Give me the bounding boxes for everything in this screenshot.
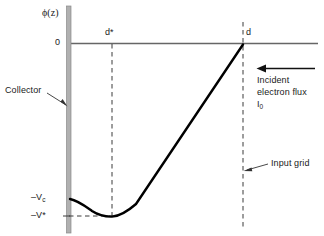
incident-flux-line-2: electron flux — [257, 86, 307, 98]
minus-vc-label: –Vc — [31, 192, 46, 205]
incident-flux-line-3: I0 — [257, 98, 307, 113]
d-star-label: d* — [105, 27, 114, 38]
diagram-canvas — [0, 0, 324, 236]
input-grid-label: Input grid — [271, 158, 310, 169]
d-label: d — [246, 27, 251, 38]
potential-profile-figure: ϕ(z) 0 d* d –Vc –V* Collector Input grid… — [0, 0, 324, 236]
collector-label: Collector — [5, 85, 41, 96]
incident-flux-current-sub: 0 — [260, 103, 264, 110]
incident-flux-arrowhead — [257, 65, 267, 73]
input-grid-leader-arrowhead — [244, 167, 253, 171]
origin-label: 0 — [55, 37, 60, 48]
minus-vc-label-sub: c — [42, 196, 45, 203]
minus-v-star-label: –V* — [31, 210, 46, 221]
y-axis-label: ϕ(z) — [42, 7, 59, 18]
minus-vc-label-main: –V — [31, 192, 42, 202]
potential-curve — [70, 45, 243, 217]
incident-flux-label: Incident electron flux I0 — [257, 74, 307, 113]
incident-flux-line-1: Incident — [257, 74, 307, 86]
